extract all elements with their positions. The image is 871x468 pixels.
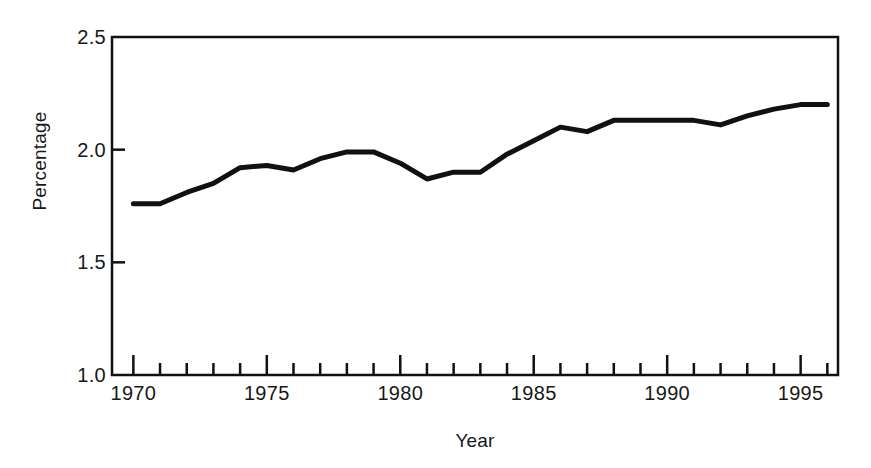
plot-area: [0, 0, 871, 468]
axis-frame: [112, 37, 838, 375]
x-axis-label: Year: [112, 430, 838, 452]
chart-figure: Percentage 1.01.52.02.5 1970197519801985…: [0, 0, 871, 468]
tick-marks: [112, 150, 827, 375]
data-series-line: [133, 105, 827, 204]
